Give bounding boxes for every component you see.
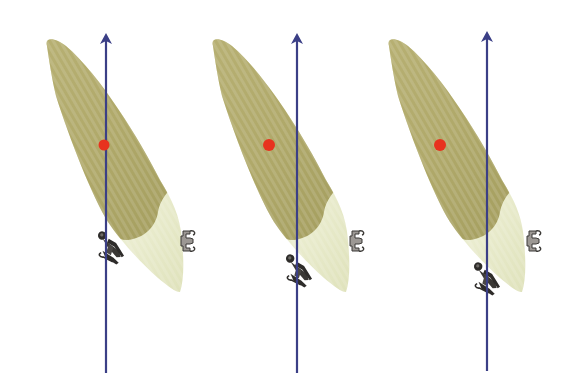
panel-1 — [30, 30, 200, 373]
tooth-2 — [196, 30, 366, 310]
lingual-bracket-icon — [527, 231, 541, 251]
diagram-canvas — [0, 0, 564, 392]
center-of-resistance-dot — [99, 140, 110, 151]
lingual-bracket-icon — [350, 231, 364, 251]
tooth-1 — [30, 30, 200, 310]
diagram-stage — [0, 0, 564, 392]
panel-2 — [196, 30, 366, 373]
center-of-resistance-dot — [434, 139, 446, 151]
center-of-resistance-dot — [263, 139, 275, 151]
tooth-3 — [372, 30, 542, 310]
lingual-bracket-icon — [181, 231, 195, 251]
panel-3 — [372, 30, 542, 371]
